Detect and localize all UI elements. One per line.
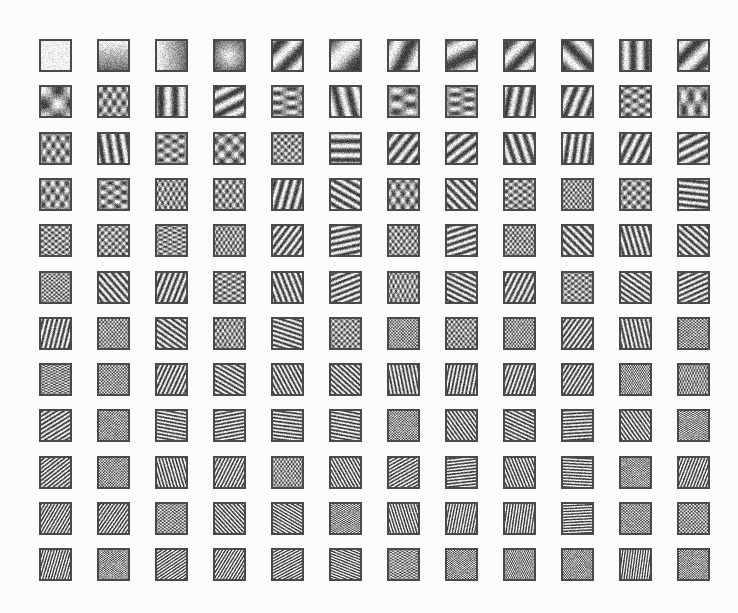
- basis-patch: [155, 132, 188, 165]
- basis-patch: [97, 409, 130, 442]
- basis-patch: [97, 132, 130, 165]
- basis-patch: [39, 502, 72, 535]
- basis-patch: [39, 39, 72, 72]
- basis-patch: [329, 85, 362, 118]
- basis-patch: [561, 178, 594, 211]
- basis-patch: [387, 317, 420, 350]
- basis-patch: [503, 132, 536, 165]
- basis-patch: [155, 409, 188, 442]
- basis-patch: [155, 548, 188, 581]
- basis-patch: [619, 132, 652, 165]
- basis-patch: [503, 271, 536, 304]
- basis-patch: [445, 456, 478, 489]
- basis-patch: [561, 317, 594, 350]
- basis-patch: [387, 502, 420, 535]
- basis-patch: [387, 271, 420, 304]
- basis-patch: [503, 363, 536, 396]
- basis-patch: [39, 85, 72, 118]
- basis-patch: [677, 132, 710, 165]
- basis-patch: [677, 363, 710, 396]
- basis-patch: [387, 178, 420, 211]
- basis-patch: [329, 39, 362, 72]
- basis-patch: [97, 224, 130, 257]
- basis-patch: [213, 224, 246, 257]
- basis-patch: [271, 409, 304, 442]
- basis-patch: [445, 409, 478, 442]
- basis-patch: [97, 317, 130, 350]
- basis-patch: [213, 317, 246, 350]
- basis-patch: [619, 409, 652, 442]
- basis-patch: [677, 456, 710, 489]
- basis-patch: [213, 132, 246, 165]
- basis-patch: [503, 502, 536, 535]
- basis-patch: [677, 548, 710, 581]
- basis-patch: [503, 409, 536, 442]
- basis-patch: [213, 409, 246, 442]
- basis-patch: [619, 39, 652, 72]
- basis-patch: [213, 456, 246, 489]
- basis-patch: [97, 85, 130, 118]
- basis-patch: [445, 85, 478, 118]
- basis-patch: [329, 363, 362, 396]
- basis-patch: [387, 409, 420, 442]
- basis-patch: [503, 548, 536, 581]
- basis-patch: [271, 224, 304, 257]
- basis-patch: [677, 271, 710, 304]
- basis-patch: [503, 85, 536, 118]
- basis-patch: [329, 548, 362, 581]
- basis-patch: [677, 317, 710, 350]
- basis-patch: [97, 271, 130, 304]
- basis-patch: [503, 456, 536, 489]
- basis-patch: [271, 317, 304, 350]
- basis-patch: [387, 132, 420, 165]
- basis-patch: [619, 271, 652, 304]
- basis-patch: [213, 363, 246, 396]
- basis-patch: [271, 85, 304, 118]
- basis-patch: [561, 224, 594, 257]
- basis-patch: [387, 39, 420, 72]
- basis-patch: [329, 271, 362, 304]
- basis-patch: [445, 548, 478, 581]
- basis-patch: [213, 39, 246, 72]
- basis-patch: [503, 39, 536, 72]
- basis-patch: [329, 502, 362, 535]
- basis-patch: [97, 178, 130, 211]
- basis-patch: [677, 224, 710, 257]
- basis-patch: [445, 132, 478, 165]
- basis-patch: [561, 502, 594, 535]
- basis-patch: [561, 409, 594, 442]
- basis-patch: [561, 363, 594, 396]
- basis-patch: [155, 363, 188, 396]
- basis-patch: [503, 178, 536, 211]
- basis-patch: [445, 224, 478, 257]
- basis-patch: [97, 456, 130, 489]
- basis-patch: [97, 39, 130, 72]
- basis-patch: [445, 317, 478, 350]
- basis-patch: [155, 224, 188, 257]
- basis-patch: [213, 271, 246, 304]
- basis-patch: [271, 548, 304, 581]
- basis-patch: [619, 317, 652, 350]
- basis-patch: [329, 409, 362, 442]
- basis-patch: [213, 548, 246, 581]
- basis-patch: [329, 456, 362, 489]
- basis-patch: [677, 178, 710, 211]
- basis-patch: [271, 363, 304, 396]
- basis-patch: [155, 502, 188, 535]
- basis-patch: [503, 224, 536, 257]
- basis-patch: [387, 224, 420, 257]
- basis-patch: [561, 132, 594, 165]
- basis-patch: [619, 363, 652, 396]
- basis-patch: [619, 456, 652, 489]
- basis-patch: [271, 271, 304, 304]
- basis-patch: [39, 548, 72, 581]
- basis-patch: [677, 502, 710, 535]
- basis-patch: [329, 132, 362, 165]
- basis-patch: [329, 178, 362, 211]
- basis-patch: [39, 363, 72, 396]
- basis-patch: [677, 409, 710, 442]
- basis-patch: [619, 224, 652, 257]
- basis-patch: [561, 271, 594, 304]
- basis-patch: [677, 85, 710, 118]
- basis-patch: [213, 178, 246, 211]
